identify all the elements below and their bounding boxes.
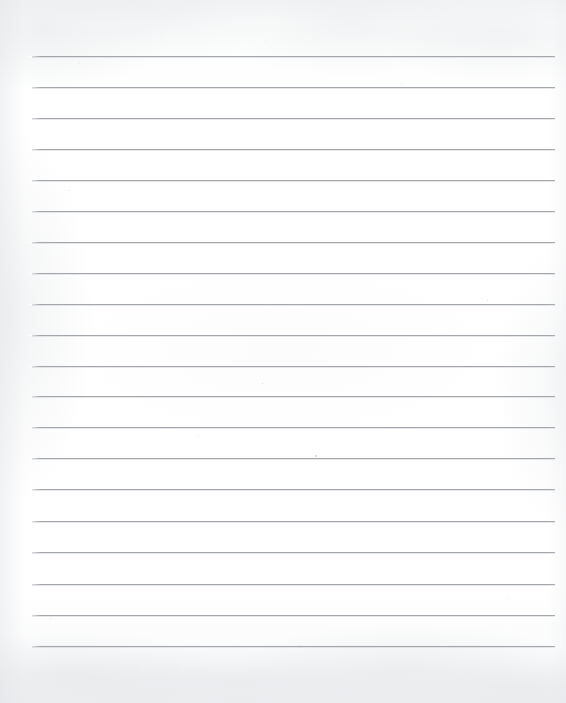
- writing-area[interactable]: [32, 40, 555, 660]
- lined-paper-sheet: [0, 0, 566, 703]
